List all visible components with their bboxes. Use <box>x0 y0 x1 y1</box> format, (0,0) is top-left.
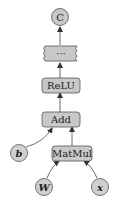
relu-label: ReLU <box>47 80 75 91</box>
b-node: b <box>11 145 28 162</box>
b-label: b <box>16 148 23 159</box>
add-node: Add <box>42 112 80 127</box>
output-node: C <box>52 9 69 26</box>
computation-graph: C ··· ReLU Add MatMul b W x <box>0 0 117 207</box>
W-node: W <box>36 179 53 196</box>
x-label: x <box>96 182 104 193</box>
edge-x-to-matmul <box>84 161 97 178</box>
W-label: W <box>38 182 51 193</box>
relu-node: ReLU <box>42 78 80 93</box>
edge-b-to-add <box>26 128 52 147</box>
ellipsis-label: ··· <box>56 48 66 59</box>
matmul-node: MatMul <box>52 146 92 161</box>
ellipsis-node: ··· <box>44 46 78 61</box>
x-node: x <box>92 179 109 196</box>
matmul-label: MatMul <box>52 148 92 159</box>
output-label: C <box>56 12 64 23</box>
add-label: Add <box>50 114 72 125</box>
edge-W-to-matmul <box>47 161 59 178</box>
